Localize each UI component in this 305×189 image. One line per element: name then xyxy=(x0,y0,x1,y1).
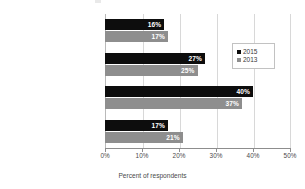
legend-item-2013: 2013 xyxy=(237,57,271,64)
bar-2013: 37% xyxy=(105,98,242,109)
bar-value-label: 16% xyxy=(148,21,165,28)
bar-value-label: 37% xyxy=(225,100,242,107)
bar-value-label: 21% xyxy=(166,134,183,141)
bar-2015: 16% xyxy=(105,19,164,30)
bar-2013: 25% xyxy=(105,65,198,76)
bar-group: Between one and three years 40% 37% xyxy=(0,83,305,117)
bar-group: Less than a year 17% 21% xyxy=(0,117,305,151)
x-tick-label: 40% xyxy=(247,152,260,159)
bar-2013: 17% xyxy=(105,31,168,42)
x-tick-label: 20% xyxy=(173,152,186,159)
bar-value-label: 17% xyxy=(151,33,168,40)
bar-2015: 17% xyxy=(105,120,168,131)
bar-value-label: 40% xyxy=(237,88,254,95)
x-tick-label: 30% xyxy=(210,152,223,159)
bar-chart: More than six years 16% 17% Between thre… xyxy=(0,0,305,189)
x-tick-label: 10% xyxy=(136,152,149,159)
bar-2015: 40% xyxy=(105,86,253,97)
legend-swatch-icon xyxy=(237,58,241,62)
bar-2013: 21% xyxy=(105,132,183,143)
x-tick-label: 50% xyxy=(284,152,297,159)
bar-value-label: 25% xyxy=(181,67,198,74)
x-axis-title: Percent of respondents xyxy=(0,172,305,179)
legend-label: 2013 xyxy=(243,57,257,64)
bar-value-label: 17% xyxy=(151,122,168,129)
legend: 2015 2013 xyxy=(232,43,275,69)
title-remnant xyxy=(95,0,101,3)
legend-swatch-icon xyxy=(237,50,241,54)
legend-item-2015: 2015 xyxy=(237,49,271,56)
bar-2015: 27% xyxy=(105,53,205,64)
bar-value-label: 27% xyxy=(188,55,205,62)
legend-label: 2015 xyxy=(243,49,257,56)
x-tick-label: 0% xyxy=(100,152,109,159)
